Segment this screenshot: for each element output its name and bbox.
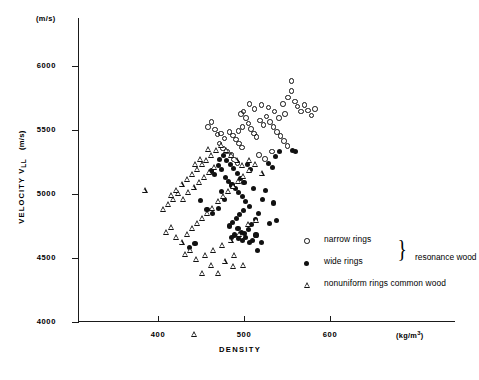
data-point-open-triangle [222, 258, 228, 264]
data-point-open-triangle [252, 161, 258, 167]
data-point-filled-circle [251, 186, 256, 191]
data-point-filled-circle [227, 223, 232, 228]
legend-group-label: resonance wood [415, 252, 476, 262]
legend-label: narrow rings [324, 234, 371, 244]
x-axis-tick [244, 316, 245, 322]
data-point-open-circle [252, 106, 258, 112]
data-point-filled-circle [247, 204, 252, 209]
y-axis-tick [72, 130, 79, 131]
data-point-open-triangle [209, 205, 215, 211]
data-point-filled-circle [246, 227, 251, 232]
data-point-open-triangle [225, 188, 231, 194]
data-point-open-circle [243, 115, 249, 121]
data-point-open-circle [259, 102, 265, 108]
data-point-open-circle [205, 124, 211, 130]
data-point-open-circle [222, 136, 228, 142]
data-point-filled-circle [293, 149, 298, 154]
data-point-open-triangle [211, 164, 217, 170]
legend-marker-filled-circle [304, 261, 309, 266]
data-point-open-triangle [220, 193, 226, 199]
data-point-filled-circle [250, 238, 255, 243]
data-point-open-circle [266, 105, 272, 111]
data-point-open-triangle [182, 251, 188, 257]
x-axis-tick [330, 316, 331, 322]
data-point-open-triangle [168, 192, 174, 198]
data-point-filled-circle [270, 165, 275, 170]
data-point-filled-circle [216, 206, 221, 211]
y-axis-title-subscript: LL [20, 159, 27, 168]
y-axis-tick [72, 258, 79, 259]
data-point-open-circle [240, 124, 246, 130]
legend-label: nonuniform rings common wood [324, 278, 446, 288]
data-point-open-triangle [253, 217, 259, 223]
x-axis-units-text: (kg/m [396, 331, 417, 340]
data-point-open-triangle [168, 224, 174, 230]
data-point-open-triangle [208, 262, 214, 268]
data-point-open-triangle [184, 231, 190, 237]
x-axis-tick-label: 500 [221, 330, 267, 339]
x-axis-line [78, 321, 455, 322]
data-point-filled-circle [198, 198, 203, 203]
data-point-open-triangle [179, 181, 185, 187]
data-point-open-circle [272, 109, 278, 115]
data-point-open-triangle [240, 173, 246, 179]
data-point-open-circle [261, 122, 267, 128]
legend-marker-open-triangle [304, 282, 310, 288]
data-point-open-triangle [194, 220, 200, 226]
data-point-open-triangle [228, 152, 234, 158]
scatter-chart-figure: (m/s) VELOCITY VLL(m/s) DENSITY (kg/m3) … [0, 0, 479, 380]
data-point-open-triangle [239, 162, 245, 168]
data-point-open-triangle [210, 247, 216, 253]
data-point-open-triangle [240, 262, 246, 268]
data-point-open-triangle [231, 252, 237, 258]
data-point-open-triangle [189, 225, 195, 231]
data-point-open-circle [247, 101, 253, 107]
legend-label: wide rings [324, 256, 363, 266]
data-point-open-circle [280, 101, 286, 107]
data-point-filled-circle [259, 240, 264, 245]
data-point-open-circle [312, 106, 318, 112]
data-point-filled-circle [263, 188, 268, 193]
data-point-filled-circle [277, 149, 282, 154]
data-point-open-circle [298, 109, 304, 115]
data-point-open-triangle [192, 161, 198, 167]
data-point-open-circle [285, 95, 291, 101]
y-axis-tick-label: 6000 [22, 61, 56, 70]
data-point-filled-circle [253, 232, 258, 237]
data-point-filled-circle [255, 248, 260, 253]
data-point-open-triangle [218, 142, 224, 148]
data-point-open-triangle [191, 331, 197, 337]
data-point-open-triangle [219, 242, 225, 248]
data-point-open-triangle [205, 146, 211, 152]
data-point-filled-circle [219, 167, 224, 172]
data-point-filled-circle [231, 166, 236, 171]
y-axis-tick-label: 4500 [22, 253, 56, 262]
y-axis-units-label: (m/s) [36, 14, 56, 23]
data-point-open-triangle [259, 170, 265, 176]
data-point-open-triangle [160, 206, 166, 212]
data-point-filled-circle [192, 241, 197, 246]
data-point-filled-circle [274, 218, 279, 223]
data-point-open-circle [256, 152, 262, 158]
data-point-open-triangle [245, 221, 251, 227]
x-axis-tick [158, 316, 159, 322]
x-axis-units-label: (kg/m3) [396, 330, 424, 340]
data-point-open-circle [254, 134, 260, 140]
chart-legend: narrow ringswide ringsnonuniform rings c… [298, 234, 479, 296]
data-point-open-triangle [142, 187, 148, 193]
data-point-filled-circle [271, 200, 276, 205]
data-point-open-circle [276, 115, 282, 121]
data-point-open-triangle [191, 184, 197, 190]
y-axis-tick [72, 66, 79, 67]
x-axis-tick-label: 600 [307, 330, 353, 339]
y-axis-tick-label: 5000 [22, 189, 56, 198]
data-point-open-circle [209, 119, 215, 125]
data-point-filled-circle [260, 197, 265, 202]
y-axis-title: VELOCITY VLL(m/s) [17, 117, 27, 237]
data-point-open-triangle [234, 157, 240, 163]
data-point-open-triangle [201, 174, 207, 180]
data-point-open-triangle [199, 270, 205, 276]
x-axis-units-close: ) [421, 331, 424, 340]
data-point-open-triangle [213, 147, 219, 153]
data-point-filled-circle [212, 172, 217, 177]
